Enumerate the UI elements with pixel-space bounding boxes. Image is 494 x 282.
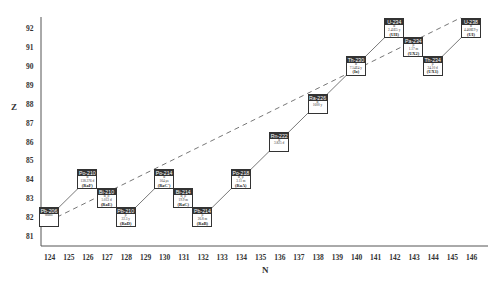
x-tick-label: 138 [313,253,325,262]
half-life: 3.825 d [274,142,284,146]
nuclide-box: Rn-222α3.825 d [269,132,289,152]
x-tick-label: 125 [63,253,75,262]
nuclide-box: Ra-226α1600 y [308,94,328,114]
y-tick-label: 84 [26,175,34,184]
y-tick-label: 89 [26,81,34,90]
historical-name: (RaF) [82,184,93,189]
x-tick-label: 146 [466,253,478,262]
x-tick-label: 133 [217,253,229,262]
nuclide-box: Pb-214β26.8 m(RaB) [192,207,212,227]
y-tick-label: 83 [26,194,34,203]
x-tick-label: 129 [140,253,152,262]
x-tick-label: 124 [44,253,56,262]
nuclide-box: Pa-234β1.17 m(UX2) [403,37,423,57]
x-tick-label: 128 [121,253,133,262]
nuclide-box: Pb-210β22.3 y(RaD) [116,207,136,227]
y-tick-label: 85 [26,156,34,165]
y-tick-label: 82 [26,213,34,222]
x-tick-label: 132 [197,253,209,262]
nuclide-box: Th-234β24.10 d(UX1) [423,56,443,76]
y-axis-title: Z [11,102,17,112]
nuclide-box: U-234α2.45E5 y(UII) [384,18,404,38]
x-axis-title: N [262,265,269,275]
historical-name: (UII) [389,33,399,38]
nuclide-box: U-238α4.468E9 y(UI) [461,18,481,38]
historical-name: (Io) [352,70,359,75]
x-tick-labels: 1241251261271281291301311321331341351361… [44,253,477,262]
x-tick-label: 127 [102,253,114,262]
x-tick-label: 145 [447,253,459,262]
x-tick-label: 140 [351,253,363,262]
nuclide-box: Th-230α7.54E4 y(Io) [346,56,366,76]
y-tick-label: 92 [26,24,34,33]
nuclide-box: Bi-210α, β5.013 d(RaE) [97,188,117,208]
half-life: 1600 y [313,104,322,108]
nuclide-box: Bi-214α, β19.9 m(RaC) [173,188,193,208]
historical-name: (RaC) [178,203,189,208]
y-tick-label: 87 [26,119,34,128]
historical-name: (RaB) [197,222,208,227]
x-tick-label: 143 [408,253,420,262]
x-tick-label: 131 [178,253,190,262]
y-tick-label: 86 [26,138,34,147]
historical-name: (RaD) [120,222,131,227]
x-tick-label: 142 [389,253,401,262]
historical-name: (UX1) [427,70,438,75]
historical-name: (RaA) [235,184,246,189]
nuclide-box: Po-210α138.376 d(RaF) [77,169,97,189]
x-tick-label: 139 [332,253,344,262]
y-tick-label: 88 [26,100,34,109]
x-tick-label: 130 [159,253,171,262]
nuclide-box: Po-218α, β3.11 m(RaA) [231,169,251,189]
nuclide-box: Pb-206stable [39,207,59,227]
x-tick-label: 126 [82,253,94,262]
y-tick-label: 81 [26,232,34,241]
nuclide-box: Po-214α164 μs(RaC′) [154,169,174,189]
y-tick-labels: 818283848586878889909192 [26,24,34,241]
historical-name: (RaE) [101,203,112,208]
x-tick-label: 134 [236,253,248,262]
historical-name: (UX2) [408,52,419,57]
historical-name: (RaC′) [158,184,171,189]
half-life: stable [45,214,53,218]
reference-dashed-line [57,18,461,217]
x-tick-label: 135 [255,253,266,262]
x-tick-label: 144 [428,253,440,262]
x-tick-label: 136 [274,253,286,262]
historical-name: (UI) [467,33,475,38]
x-tick-label: 137 [293,253,305,262]
y-tick-label: 91 [26,43,34,52]
y-tick-label: 90 [26,62,34,71]
x-tick-label: 141 [370,253,382,262]
